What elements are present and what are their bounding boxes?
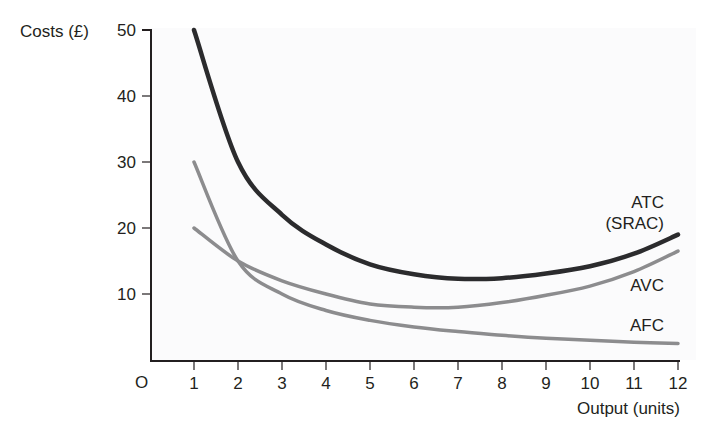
series-label-avc: AVC bbox=[630, 276, 664, 295]
x-tick-label: 1 bbox=[189, 374, 198, 393]
x-tick-label: 11 bbox=[625, 374, 643, 393]
y-tick-label: 30 bbox=[117, 153, 136, 172]
y-tick-label: 40 bbox=[117, 87, 136, 106]
x-axis-title: Output (units) bbox=[577, 399, 680, 418]
y-tick-label: 10 bbox=[117, 285, 136, 304]
origin-label: O bbox=[135, 373, 148, 392]
cost-curves-chart: 1020304050 123456789101112 Costs (£) Out… bbox=[0, 0, 715, 440]
x-tick-label: 6 bbox=[409, 374, 418, 393]
x-axis-ticks: 123456789101112 bbox=[189, 361, 687, 393]
x-tick-label: 10 bbox=[581, 374, 600, 393]
x-tick-label: 8 bbox=[497, 374, 506, 393]
x-tick-label: 9 bbox=[541, 374, 550, 393]
x-tick-label: 3 bbox=[277, 374, 286, 393]
y-axis-title: Costs (£) bbox=[20, 22, 89, 41]
y-tick-label: 20 bbox=[117, 219, 136, 238]
series-label-atc: (SRAC) bbox=[605, 214, 664, 233]
plot-area bbox=[151, 28, 696, 360]
x-tick-label: 7 bbox=[453, 374, 462, 393]
x-tick-label: 4 bbox=[321, 374, 330, 393]
series-label-afc: AFC bbox=[630, 316, 664, 335]
x-tick-label: 5 bbox=[365, 374, 374, 393]
series-label-atc: ATC bbox=[631, 193, 664, 212]
x-tick-label: 2 bbox=[233, 374, 242, 393]
x-tick-label: 12 bbox=[669, 374, 688, 393]
y-tick-label: 50 bbox=[117, 21, 136, 40]
y-axis-ticks: 1020304050 bbox=[117, 21, 151, 304]
